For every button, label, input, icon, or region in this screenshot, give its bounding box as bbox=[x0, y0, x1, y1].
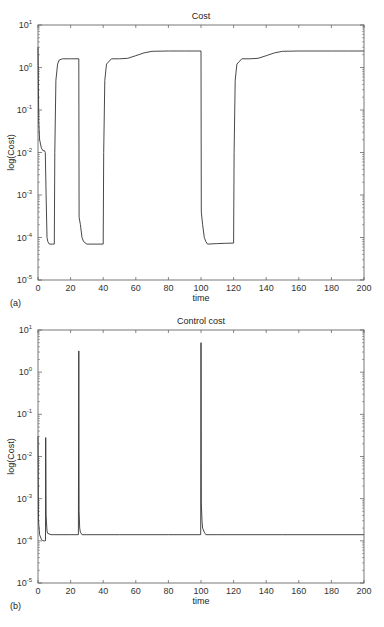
x-tick-label: 160 bbox=[291, 586, 306, 596]
chart-panel-a: Cost02040608010012014016018020010-510-41… bbox=[0, 0, 384, 310]
x-tick-label: 20 bbox=[66, 586, 76, 596]
y-tick-label: 10-5 bbox=[17, 274, 33, 285]
data-line bbox=[38, 343, 364, 541]
x-tick-label: 0 bbox=[35, 586, 40, 596]
x-tick-label: 40 bbox=[98, 586, 108, 596]
cost-chart: Cost02040608010012014016018020010-510-41… bbox=[0, 0, 384, 310]
y-tick-label: 10-2 bbox=[17, 451, 33, 462]
x-tick-label: 100 bbox=[193, 586, 208, 596]
x-tick-label: 120 bbox=[226, 283, 241, 293]
y-tick-label: 10-1 bbox=[17, 104, 33, 115]
x-tick-label: 60 bbox=[131, 283, 141, 293]
x-tick-label: 60 bbox=[131, 586, 141, 596]
y-tick-label: 100 bbox=[19, 62, 33, 73]
x-tick-label: 80 bbox=[163, 283, 173, 293]
x-axis-label: time bbox=[192, 596, 209, 606]
y-tick-label: 100 bbox=[19, 366, 33, 377]
x-tick-label: 80 bbox=[163, 586, 173, 596]
y-axis-label: log(Cost) bbox=[6, 438, 16, 475]
y-tick-label: 10-3 bbox=[17, 493, 33, 504]
y-tick-label: 10-2 bbox=[17, 147, 33, 158]
x-axis-label: time bbox=[192, 293, 209, 303]
y-tick-label: 101 bbox=[19, 19, 33, 30]
chart-title: Control cost bbox=[177, 316, 226, 326]
y-tick-label: 10-5 bbox=[17, 577, 33, 588]
y-tick-label: 10-3 bbox=[17, 189, 33, 200]
panel-label: (a) bbox=[10, 298, 21, 308]
y-tick-label: 101 bbox=[19, 324, 33, 335]
x-tick-label: 200 bbox=[356, 283, 371, 293]
x-tick-label: 140 bbox=[259, 586, 274, 596]
control-cost-chart: Control cost0204060801001201401601802001… bbox=[0, 310, 384, 627]
x-tick-label: 200 bbox=[356, 586, 371, 596]
y-tick-label: 10-4 bbox=[17, 232, 33, 243]
y-axis-label: log(Cost) bbox=[6, 134, 16, 171]
x-tick-label: 100 bbox=[193, 283, 208, 293]
y-tick-label: 10-1 bbox=[17, 408, 33, 419]
x-tick-label: 120 bbox=[226, 586, 241, 596]
x-tick-label: 180 bbox=[324, 586, 339, 596]
data-line bbox=[38, 47, 364, 244]
x-tick-label: 180 bbox=[324, 283, 339, 293]
x-tick-label: 40 bbox=[98, 283, 108, 293]
x-tick-label: 160 bbox=[291, 283, 306, 293]
panel-label: (b) bbox=[10, 601, 21, 611]
y-tick-label: 10-4 bbox=[17, 535, 33, 546]
chart-panel-b: Control cost0204060801001201401601802001… bbox=[0, 310, 384, 627]
x-tick-label: 20 bbox=[66, 283, 76, 293]
chart-title: Cost bbox=[192, 11, 211, 21]
x-tick-label: 0 bbox=[35, 283, 40, 293]
x-tick-label: 140 bbox=[259, 283, 274, 293]
